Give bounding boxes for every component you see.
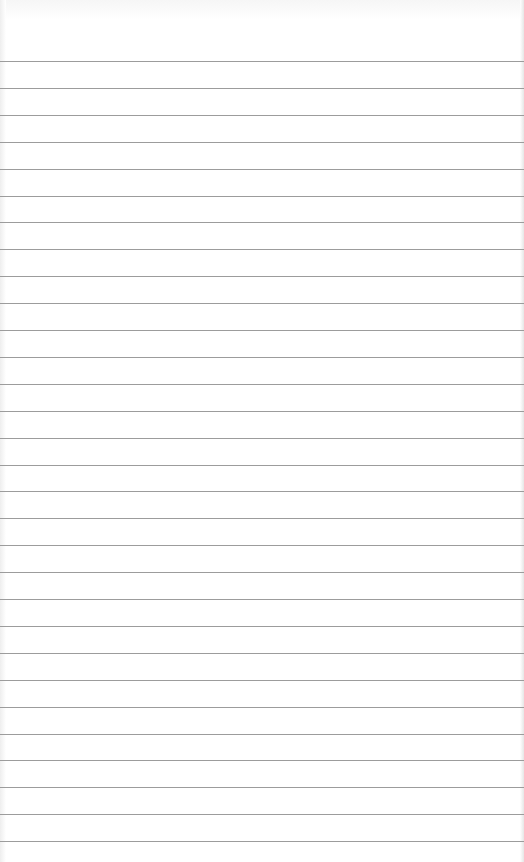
ruled-line bbox=[0, 653, 524, 654]
ruled-line bbox=[0, 303, 524, 304]
ruled-line bbox=[0, 276, 524, 277]
ruled-line bbox=[0, 760, 524, 761]
ruled-line bbox=[0, 599, 524, 600]
ruled-line bbox=[0, 545, 524, 546]
ruled-line bbox=[0, 222, 524, 223]
ruled-line bbox=[0, 115, 524, 116]
ruled-line bbox=[0, 88, 524, 89]
ruled-line bbox=[0, 841, 524, 842]
ruled-line bbox=[0, 814, 524, 815]
top-edge-bleed bbox=[0, 0, 524, 20]
ruled-line bbox=[0, 465, 524, 466]
ruled-line bbox=[0, 61, 524, 62]
right-edge-shadow bbox=[520, 0, 524, 862]
ruled-line bbox=[0, 411, 524, 412]
ruled-line bbox=[0, 142, 524, 143]
ruled-line bbox=[0, 626, 524, 627]
ruled-line bbox=[0, 734, 524, 735]
ruled-line bbox=[0, 330, 524, 331]
left-edge-shadow bbox=[0, 0, 6, 862]
ruled-line bbox=[0, 196, 524, 197]
ruled-line bbox=[0, 438, 524, 439]
ruled-line bbox=[0, 249, 524, 250]
ruled-line bbox=[0, 518, 524, 519]
ruled-line bbox=[0, 572, 524, 573]
ruled-line bbox=[0, 357, 524, 358]
lined-paper-page bbox=[0, 0, 524, 862]
ruled-line bbox=[0, 384, 524, 385]
ruled-line bbox=[0, 169, 524, 170]
ruled-line bbox=[0, 707, 524, 708]
ruled-line bbox=[0, 680, 524, 681]
ruled-line bbox=[0, 787, 524, 788]
ruled-line bbox=[0, 491, 524, 492]
